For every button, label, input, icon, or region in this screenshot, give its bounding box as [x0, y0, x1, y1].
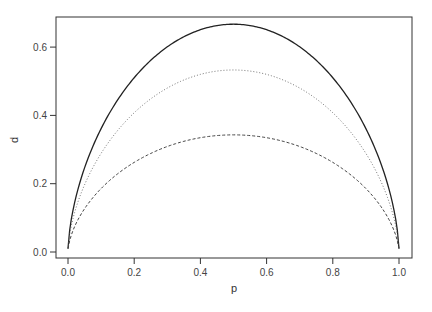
- y-tick-label: 0.4: [33, 110, 47, 121]
- x-tick-label: 0.0: [61, 267, 75, 278]
- series-line-solid: [68, 24, 399, 248]
- y-axis-label: d: [8, 137, 20, 143]
- chart: 0.00.20.40.60.81.0 0.00.20.40.6 p d: [0, 0, 432, 312]
- x-axis-label: p: [231, 282, 237, 294]
- x-tick-label: 0.8: [326, 267, 340, 278]
- x-tick-label: 0.6: [260, 267, 274, 278]
- x-tick-label: 1.0: [392, 267, 406, 278]
- x-tick-label: 0.4: [193, 267, 207, 278]
- y-tick-label: 0.2: [33, 178, 47, 189]
- y-tick-label: 0.0: [33, 247, 47, 258]
- series-group: [68, 24, 399, 248]
- plot-frame: [56, 17, 412, 258]
- series-line-dashed: [68, 135, 399, 249]
- x-tick-label: 0.2: [127, 267, 141, 278]
- series-line-dotted: [68, 70, 399, 249]
- y-tick-label: 0.6: [33, 42, 47, 53]
- x-axis: 0.00.20.40.60.81.0: [61, 258, 406, 278]
- y-axis: 0.00.20.40.6: [33, 42, 56, 258]
